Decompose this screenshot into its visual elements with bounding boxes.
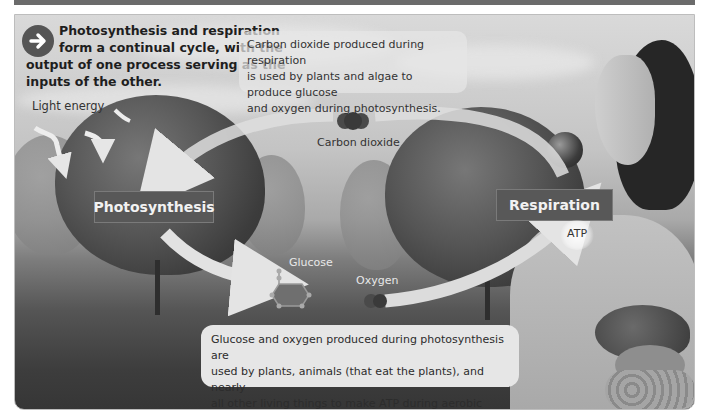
note-line: and oxygen during photosynthesis. [247, 101, 459, 117]
note-line: all other living things to make ATP duri… [211, 396, 509, 410]
glucose-molecule-icon [270, 269, 312, 309]
diagram-panel: Photosynthesis and respiration form a co… [14, 14, 695, 410]
light-energy-label: Light energy [32, 99, 104, 113]
note-line: Glucose and oxygen produced during photo… [211, 332, 509, 364]
carbon-dioxide-label: Carbon dioxide [317, 136, 400, 149]
glucose-oxygen-explanation-note: Glucose and oxygen produced during photo… [201, 325, 519, 387]
top-bar [14, 0, 695, 5]
atp-label: ATP [567, 227, 587, 240]
arrow-right-circle-icon [22, 25, 54, 57]
respiration-box: Respiration [496, 189, 613, 221]
respiration-label: Respiration [509, 197, 600, 213]
oxygen-label: Oxygen [356, 274, 398, 287]
note-line: is used by plants and algae to produce g… [247, 69, 459, 101]
co2-explanation-note: Carbon dioxide produced during respirati… [239, 31, 467, 93]
photosynthesis-label: Photosynthesis [93, 199, 214, 215]
glucose-label: Glucose [289, 256, 333, 269]
intro-line-4: inputs of the other. [26, 73, 162, 90]
photosynthesis-box: Photosynthesis [94, 191, 214, 223]
note-line: used by plants, animals (that eat the pl… [211, 364, 509, 396]
note-line: Carbon dioxide produced during respirati… [247, 37, 459, 69]
oxygen-molecule-icon [364, 294, 387, 308]
